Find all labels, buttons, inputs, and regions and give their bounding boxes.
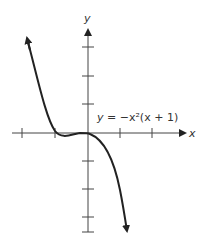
function-curve [28,42,127,231]
equation-rhs: = −x²(x + 1) [107,111,178,124]
x-axis-label: x [188,127,196,140]
equation-label: y = −x²(x + 1) [97,111,178,124]
equation-lhs: y [97,111,104,124]
y-axis-label: y [83,12,91,25]
